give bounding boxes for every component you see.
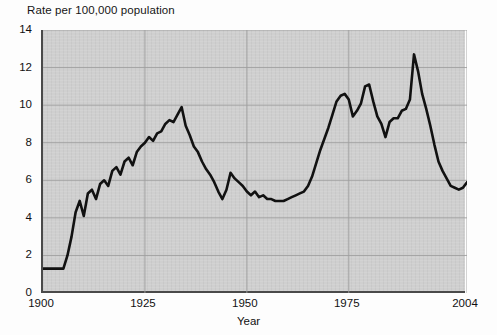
y-tick-label: 6 — [2, 174, 32, 186]
plot-svg — [43, 30, 467, 293]
y-tick-label: 14 — [2, 24, 32, 36]
grid-lines — [43, 30, 467, 293]
x-axis-label: Year — [0, 315, 497, 327]
x-tick-label: 1950 — [215, 298, 275, 310]
y-tick-label: 8 — [2, 137, 32, 149]
chart-title: Rate per 100,000 population — [27, 4, 175, 16]
plot-area — [41, 30, 465, 293]
y-tick-label: 4 — [2, 212, 32, 224]
x-tick-label: 1925 — [113, 298, 173, 310]
series-lines — [43, 54, 467, 268]
y-tick-label: 10 — [2, 99, 32, 111]
y-tick-label: 12 — [2, 62, 32, 74]
x-tick-label: 1975 — [317, 298, 377, 310]
y-tick-label: 2 — [2, 249, 32, 261]
x-tick-label: 2004 — [435, 298, 495, 310]
x-tick-label: 1900 — [11, 298, 71, 310]
data-series-line-0 — [43, 54, 467, 268]
chart-figure: Rate per 100,000 population 02468101214 … — [0, 0, 497, 335]
